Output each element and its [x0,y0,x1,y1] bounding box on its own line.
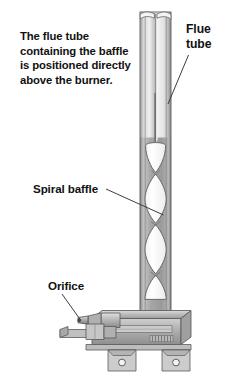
note-line-4: above the burner. [20,73,160,88]
note-line-3: is positioned directly [20,58,160,73]
label-orifice: Orifice [48,279,84,292]
label-flue-tube-line-2: tube [186,37,230,52]
flue-tube-diagram: The flue tube containing the baffle is p… [0,0,230,381]
label-flue-tube-line-1: Flue [186,22,230,37]
note-line-1: The flue tube [20,29,160,44]
mounting-foot-left-hole [119,359,126,366]
leader-line-orifice [62,294,81,320]
note-line-2: containing the baffle [20,44,160,59]
burner-base-rail [86,345,191,351]
label-flue-tube: Flue tube [186,22,230,52]
label-spiral-baffle: Spiral baffle [33,182,98,195]
orifice-collar [104,327,116,339]
burner-flame-ports [150,336,173,342]
note-text-block: The flue tube containing the baffle is p… [20,29,160,87]
mounting-foot-left [108,350,136,371]
mounting-foot-right-hole [173,359,180,366]
mounting-foot-right [162,350,190,371]
